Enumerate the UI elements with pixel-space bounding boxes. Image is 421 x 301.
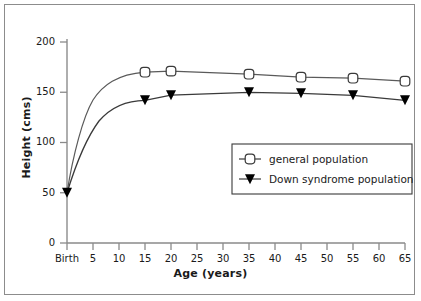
chart-frame: general population Down syndrome populat… [4,4,415,295]
chart-legend: general population Down syndrome populat… [232,144,414,194]
legend-label-down-syndrome-population: Down syndrome population [269,173,414,185]
legend-marker-open-square [245,154,255,164]
legend-box [232,144,412,194]
y-axis-title: Height (cms) [20,73,33,203]
x-tick-label-65: 65 [390,253,420,264]
y-axis-ticks [60,42,67,243]
legend-label-general-population: general population [269,153,368,165]
x-axis-ticks [67,243,405,250]
y-tick-label-200: 200 [23,36,55,47]
x-axis-title: Age (years) [5,267,416,280]
y-tick-label-0: 0 [23,237,55,248]
